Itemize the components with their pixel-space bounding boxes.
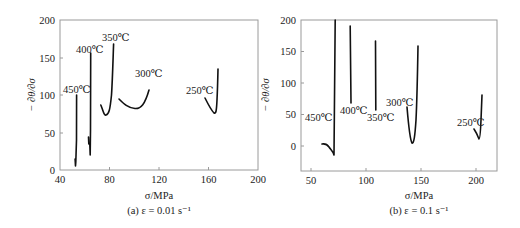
x-tick-label: 200: [250, 174, 266, 185]
figure: 0 50 100 150 200 40 80 120 160 200 − ∂θ/…: [0, 0, 520, 228]
panel-a: 0 50 100 150 200 40 80 120 160 200 − ∂θ/…: [26, 15, 266, 217]
caption-a: (a) ε = 0.01 s⁻¹: [127, 205, 191, 217]
label-300C: 300℃: [386, 97, 414, 108]
label-350C: 350℃: [102, 32, 130, 43]
x-tick-label: 50: [306, 175, 317, 186]
y-tick-label: 50: [45, 128, 56, 139]
panel-b: 0 50 100 150 200 50 100 150 200 − ∂θ/∂σ …: [260, 15, 497, 217]
x-tick-label: 150: [413, 175, 429, 186]
x-tick-label: 160: [201, 174, 217, 185]
y-tick-label: 200: [280, 15, 296, 26]
y-tick-label: 50: [286, 109, 297, 120]
y-tick-label: 150: [39, 53, 55, 64]
y-tick-label: 0: [291, 141, 296, 152]
label-450C: 450℃: [305, 112, 333, 123]
x-tick-label: 120: [151, 174, 167, 185]
label-300C: 300℃: [135, 68, 163, 79]
curve-450C: [75, 95, 77, 166]
y-tick-label: 100: [280, 78, 296, 89]
label-400C: 400℃: [76, 44, 104, 55]
curve-300C: [407, 46, 418, 143]
x-tick-label: 80: [104, 174, 115, 185]
curve-400C: [89, 53, 91, 155]
label-400C: 400℃: [340, 105, 368, 116]
curve-450C: [322, 20, 335, 155]
label-250C: 250℃: [457, 117, 485, 128]
y-tick-label: 200: [39, 15, 55, 26]
x-axis-label: σ/MPa: [145, 190, 174, 201]
label-250C: 250℃: [186, 85, 214, 96]
x-axis-label: σ/MPa: [405, 190, 434, 201]
x-tick-label: 40: [55, 174, 66, 185]
y-axis-label: − ∂θ/∂σ: [26, 78, 37, 112]
curve-300C: [119, 90, 149, 109]
y-axis-label: − ∂θ/∂σ: [260, 78, 271, 112]
x-tick-label: 200: [468, 175, 484, 186]
x-tick-label: 100: [358, 175, 374, 186]
label-350C: 350℃: [367, 112, 395, 123]
y-tick-label: 150: [280, 46, 296, 57]
label-450C: 450℃: [63, 84, 91, 95]
caption-b: (b) ε = 0.1 s⁻¹: [390, 205, 449, 217]
y-tick-label: 100: [39, 90, 55, 101]
curve-400C: [350, 26, 351, 103]
